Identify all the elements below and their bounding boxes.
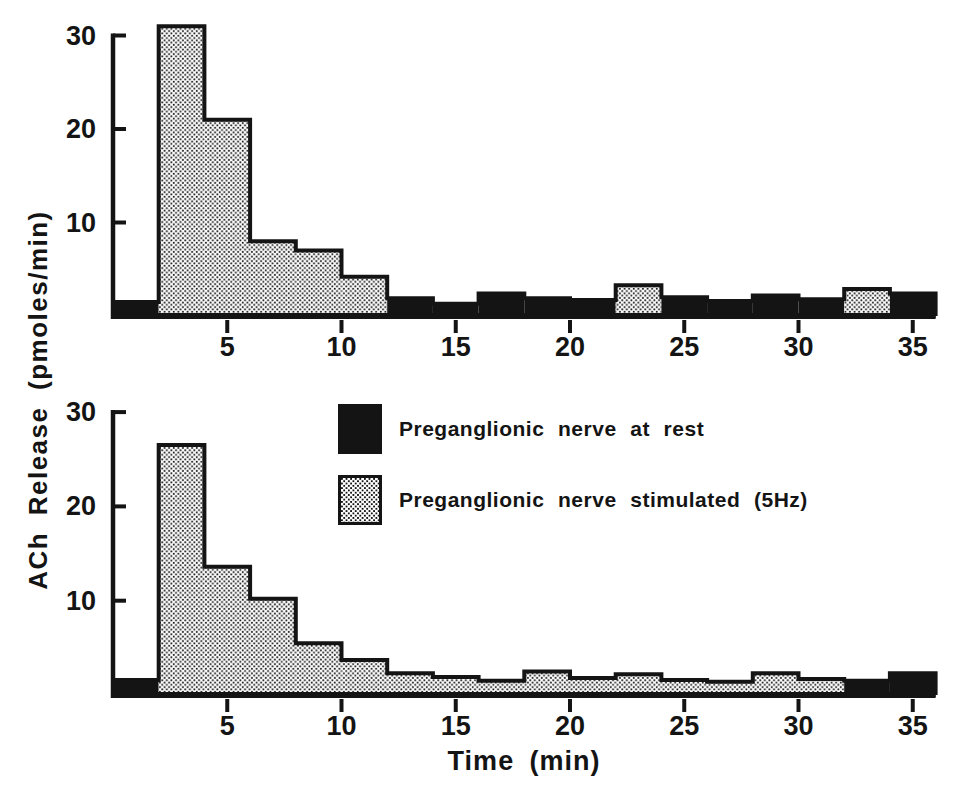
x-tick-label: 10: [326, 332, 356, 362]
y-tick-label: 10: [66, 586, 96, 616]
legend-item-stimulated: Preganglionic nerve stimulated (5Hz): [338, 475, 808, 525]
y-tick-label: 10: [66, 208, 96, 238]
histogram-bar-stim: [204, 120, 250, 318]
x-tick-label: 25: [669, 711, 699, 741]
legend: Preganglionic nerve at rest Preganglioni…: [338, 404, 808, 525]
legend-label-stimulated: Preganglionic nerve stimulated (5Hz): [399, 488, 808, 512]
x-tick-label: 35: [898, 332, 928, 362]
x-tick-label: 15: [441, 711, 471, 741]
histogram-bar-stim: [204, 567, 250, 697]
legend-item-rest: Preganglionic nerve at rest: [338, 404, 808, 454]
histogram-bar-stim: [159, 445, 205, 697]
x-tick-label: 35: [898, 711, 928, 741]
x-tick-label: 20: [555, 711, 585, 741]
x-axis-label: Time (min): [448, 746, 601, 777]
legend-swatch-stimulated: [338, 475, 382, 525]
x-tick-label: 25: [669, 332, 699, 362]
histogram-bar-stim: [296, 251, 342, 318]
histogram-bar-stim: [342, 277, 388, 318]
x-tick-label: 15: [441, 332, 471, 362]
x-tick-label: 20: [555, 332, 585, 362]
y-tick-label: 30: [66, 21, 96, 51]
x-tick-label: 10: [326, 711, 356, 741]
x-tick-label: 30: [783, 711, 813, 741]
y-tick-label: 20: [66, 114, 96, 144]
y-tick-label: 20: [66, 491, 96, 521]
y-tick-label: 30: [66, 397, 96, 427]
legend-label-rest: Preganglionic nerve at rest: [399, 417, 704, 441]
histogram-bar-stim: [250, 599, 296, 697]
x-tick-label: 5: [220, 332, 235, 362]
histogram-bar-stim: [342, 660, 388, 697]
figure: ACh Release (pmoles/min) 102030510152025…: [0, 0, 956, 789]
x-tick-label: 5: [220, 711, 235, 741]
histogram-bar-stim: [296, 643, 342, 697]
histogram-bar-stim: [159, 26, 205, 318]
histogram-bar-stim: [250, 241, 296, 318]
chart-panel-top: 1020305101520253035: [0, 0, 956, 372]
legend-swatch-rest: [338, 404, 382, 454]
x-tick-label: 30: [783, 332, 813, 362]
